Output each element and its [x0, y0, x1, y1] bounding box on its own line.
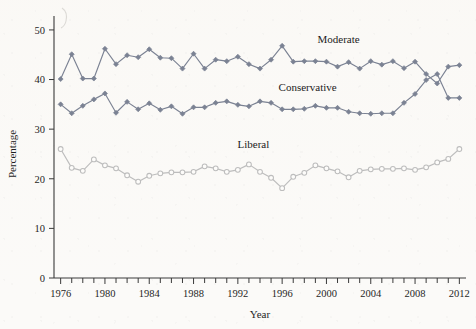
x-axis-tick-label: 1988 [183, 288, 204, 299]
data-point-marker [357, 168, 362, 173]
data-point-marker [379, 62, 384, 67]
x-axis-tick-label: 1992 [227, 288, 248, 299]
data-point-marker [136, 179, 141, 184]
data-point-marker [446, 95, 451, 100]
x-axis-tick-label: 1976 [50, 288, 71, 299]
data-point-marker [235, 167, 240, 172]
data-point-marker [346, 60, 351, 65]
y-axis-tick-label: 50 [35, 25, 46, 36]
data-point-marker [246, 104, 251, 109]
data-point-marker [324, 105, 329, 110]
data-point-marker [435, 160, 440, 165]
x-axis-tick-label: 1984 [139, 288, 161, 299]
data-point-marker [103, 163, 108, 168]
data-point-marker [446, 157, 451, 162]
data-point-marker [147, 173, 152, 178]
data-point-marker [213, 166, 218, 171]
line-chart-svg: 0102030405019761980198419881992199620002… [0, 0, 476, 329]
data-point-marker [457, 147, 462, 152]
x-axis-tick-label: 2004 [360, 288, 382, 299]
data-point-marker [424, 165, 429, 170]
series-polyline [61, 46, 460, 84]
data-point-marker [457, 63, 462, 68]
data-point-marker [291, 174, 296, 179]
series-label-conservative: Conservative [279, 81, 337, 93]
data-point-marker [158, 107, 163, 112]
x-axis-tick-label: 1980 [94, 288, 115, 299]
data-point-marker [69, 165, 74, 170]
data-point-marker [402, 166, 407, 171]
data-point-marker [357, 111, 362, 116]
y-axis-tick-label: 10 [35, 223, 46, 234]
data-point-marker [313, 163, 318, 168]
series-polyline [61, 74, 460, 114]
series-label-moderate: Moderate [318, 33, 360, 45]
chart-container: 0102030405019761980198419881992199620002… [0, 0, 476, 329]
data-point-marker [280, 186, 285, 191]
data-point-marker [302, 170, 307, 175]
data-point-marker [291, 107, 296, 112]
data-point-marker [391, 166, 396, 171]
x-axis-tick-label: 2008 [405, 288, 426, 299]
y-axis-tick-label: 20 [35, 174, 46, 185]
data-point-marker [324, 166, 329, 171]
data-point-marker [191, 105, 196, 110]
data-point-marker [269, 175, 274, 180]
data-point-marker [91, 76, 96, 81]
data-point-marker [147, 101, 152, 106]
y-axis-tick-label: 40 [35, 74, 46, 85]
data-point-marker [180, 170, 185, 175]
series-group [58, 43, 462, 86]
data-point-marker [224, 169, 229, 174]
data-point-marker [346, 175, 351, 180]
x-axis-tick-label: 1996 [272, 288, 293, 299]
data-point-marker [224, 59, 229, 64]
y-axis-tick-label: 0 [40, 273, 45, 284]
data-point-marker [158, 171, 163, 176]
data-point-marker [269, 100, 274, 105]
scan-artifacts [61, 8, 67, 28]
data-point-marker [202, 164, 207, 169]
data-point-marker [169, 170, 174, 175]
data-point-marker [114, 166, 119, 171]
data-point-marker [191, 169, 196, 174]
data-point-marker [335, 169, 340, 174]
data-point-marker [302, 59, 307, 64]
chart-axes: 0102030405019761980198419881992199620002… [35, 16, 470, 299]
x-axis-tick-label: 2000 [316, 288, 337, 299]
y-axis-title: Percentage [6, 130, 18, 178]
data-point-marker [368, 111, 373, 116]
data-point-marker [58, 147, 63, 152]
data-point-marker [224, 99, 229, 104]
data-point-marker [91, 97, 96, 102]
data-point-marker [58, 77, 63, 82]
data-point-marker [435, 72, 440, 77]
series-group [58, 72, 462, 117]
data-point-marker [80, 76, 85, 81]
data-point-marker [280, 107, 285, 112]
series-label-liberal: Liberal [237, 138, 269, 150]
series-polyline [61, 149, 460, 188]
data-point-marker [258, 99, 263, 104]
data-point-marker [91, 157, 96, 162]
data-point-marker [379, 111, 384, 116]
data-point-marker [302, 106, 307, 111]
data-point-marker [202, 105, 207, 110]
data-point-marker [457, 95, 462, 100]
data-point-marker [247, 162, 252, 167]
series-group [58, 147, 462, 191]
series-inline-labels: ModerateConservativeLiberal [237, 33, 359, 150]
data-point-marker [235, 102, 240, 107]
data-point-marker [346, 109, 351, 114]
data-point-marker [69, 52, 74, 57]
x-axis-tick-label: 2012 [449, 288, 470, 299]
chart-series [58, 43, 462, 190]
data-point-marker [213, 100, 218, 105]
y-axis-tick-label: 30 [35, 124, 46, 135]
data-point-marker [413, 167, 418, 172]
data-point-marker [379, 166, 384, 171]
data-point-marker [125, 173, 130, 178]
data-point-marker [313, 103, 318, 108]
data-point-marker [368, 167, 373, 172]
data-point-marker [313, 59, 318, 64]
